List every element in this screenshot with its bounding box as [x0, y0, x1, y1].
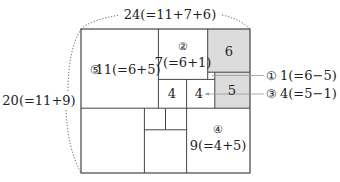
- top-dimension-label: 24(=11+7+6): [124, 7, 216, 22]
- square-6-label: 6: [225, 44, 233, 59]
- arrow-icon: [205, 93, 209, 96]
- callout-3-label: 4(=5−1): [280, 86, 337, 101]
- square-9-label: 9(=4+5): [190, 138, 247, 153]
- top-dimension-arc-left: [81, 15, 120, 29]
- left-dimension-arc-top: [68, 29, 81, 92]
- top-dimension-arc-right: [222, 15, 250, 29]
- callout-1-label: 1(=6−5): [280, 68, 337, 83]
- square-4a-label: 4: [168, 86, 176, 101]
- left-dimension-arc-bottom: [66, 110, 81, 173]
- squared-rectangle-diagram: 24(=11+7+6) 20(=11+9) ⑤ 11(=6+5) ② 7(=6+…: [0, 0, 340, 182]
- square-5-label: 5: [228, 83, 236, 98]
- square-4b-label: 4: [195, 86, 203, 101]
- square-7-marker: ②: [178, 40, 188, 53]
- callout-1-marker: ①: [266, 69, 277, 83]
- square-9-marker: ④: [213, 123, 223, 136]
- callout-3-marker: ③: [266, 87, 277, 101]
- square-11-label: 11(=6+5): [95, 62, 160, 77]
- left-dimension-label: 20(=11+9): [2, 93, 75, 108]
- square-7-label: 7(=6+1): [155, 55, 212, 70]
